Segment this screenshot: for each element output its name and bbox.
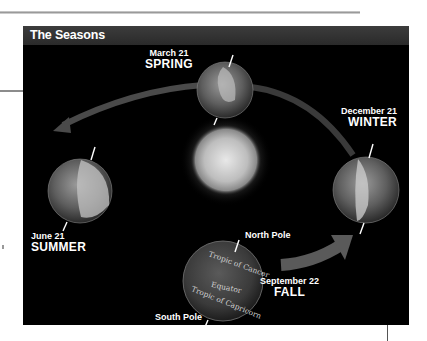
label-fall: September 22 FALL xyxy=(260,277,319,299)
page-top-rule xyxy=(0,11,360,14)
orbit-arc-spring-summer xyxy=(63,85,203,125)
orbit-scene: March 21 SPRING December 21 WINTER June … xyxy=(23,45,409,325)
sun-icon xyxy=(190,124,262,196)
north-pole-label: North Pole xyxy=(245,230,291,240)
label-summer: June 21 SUMMER xyxy=(31,232,86,254)
orbit-arc-fall-winter xyxy=(281,245,341,265)
orbit-arrow-head xyxy=(53,117,71,133)
label-winter: December 21 WINTER xyxy=(341,107,397,129)
label-spring: March 21 SPRING xyxy=(145,49,193,71)
south-pole-label: South Pole xyxy=(155,312,202,322)
page-left-rule xyxy=(0,90,24,92)
margin-mark xyxy=(2,245,4,249)
figure-title: The Seasons xyxy=(30,28,105,42)
page-right-tick xyxy=(387,325,388,341)
figure-header: The Seasons xyxy=(23,26,409,45)
seasons-figure: The Seasons xyxy=(23,26,409,325)
